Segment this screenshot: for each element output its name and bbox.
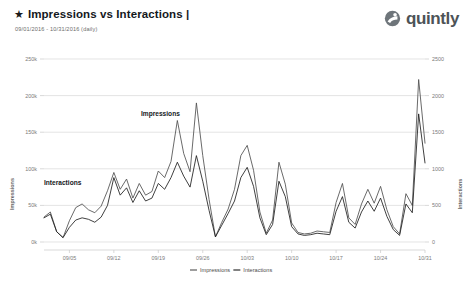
- svg-text:0k: 0k: [31, 239, 37, 245]
- title-row: ★ Impressions vs Interactions |: [14, 8, 189, 20]
- svg-text:10/31: 10/31: [418, 255, 432, 261]
- svg-text:10/17: 10/17: [329, 255, 343, 261]
- y2-axis-title: Interactions: [457, 179, 463, 210]
- svg-text:Interactions: Interactions: [243, 267, 272, 273]
- y2-axis-tick-labels: 05001000150020002500: [432, 56, 444, 245]
- svg-text:09/12: 09/12: [107, 255, 121, 261]
- svg-text:1500: 1500: [432, 129, 444, 135]
- svg-text:09/19: 09/19: [152, 255, 166, 261]
- logo-text: quintly: [406, 10, 459, 27]
- annotation-impressions: Impressions: [141, 110, 180, 118]
- chart-svg: 0k50k100k150k200k250k 050010001500200025…: [0, 44, 473, 282]
- annotation-interactions: Interactions: [44, 179, 82, 186]
- svg-text:250k: 250k: [25, 56, 37, 62]
- svg-text:1000: 1000: [432, 166, 444, 172]
- quintly-logo-icon: [384, 10, 401, 27]
- svg-text:Impressions: Impressions: [200, 267, 230, 273]
- y-axis-title: Impressions: [9, 178, 15, 210]
- star-icon: ★: [14, 9, 24, 20]
- chart-screenshot: ★ Impressions vs Interactions | 09/01/20…: [0, 0, 473, 282]
- svg-text:09/05: 09/05: [63, 255, 77, 261]
- svg-text:500: 500: [432, 202, 441, 208]
- page-title: Impressions vs Interactions |: [28, 8, 189, 20]
- svg-text:10/03: 10/03: [240, 255, 254, 261]
- quintly-logo: quintly: [384, 10, 459, 27]
- x-axis-ticks: 09/0509/1209/1909/2610/0310/1010/1710/24…: [44, 250, 432, 261]
- svg-text:2000: 2000: [432, 93, 444, 99]
- svg-text:2500: 2500: [432, 56, 444, 62]
- svg-text:10/24: 10/24: [374, 255, 388, 261]
- svg-text:150k: 150k: [25, 129, 37, 135]
- svg-text:50k: 50k: [28, 202, 37, 208]
- svg-text:200k: 200k: [25, 93, 37, 99]
- series-line-impressions: [44, 80, 425, 238]
- chart-area: 0k50k100k150k200k250k 050010001500200025…: [0, 44, 473, 282]
- svg-text:10/10: 10/10: [285, 255, 299, 261]
- svg-text:0: 0: [432, 239, 435, 245]
- svg-text:100k: 100k: [25, 166, 37, 172]
- gridlines: [40, 59, 429, 242]
- y-axis-tick-labels: 0k50k100k150k200k250k: [25, 56, 37, 245]
- date-range-subtitle: 09/01/2016 - 10/31/2016 (daily): [15, 26, 97, 32]
- chart-legend: ImpressionsInteractions: [190, 267, 272, 273]
- svg-text:09/26: 09/26: [196, 255, 210, 261]
- chart-header: ★ Impressions vs Interactions | 09/01/20…: [0, 0, 473, 44]
